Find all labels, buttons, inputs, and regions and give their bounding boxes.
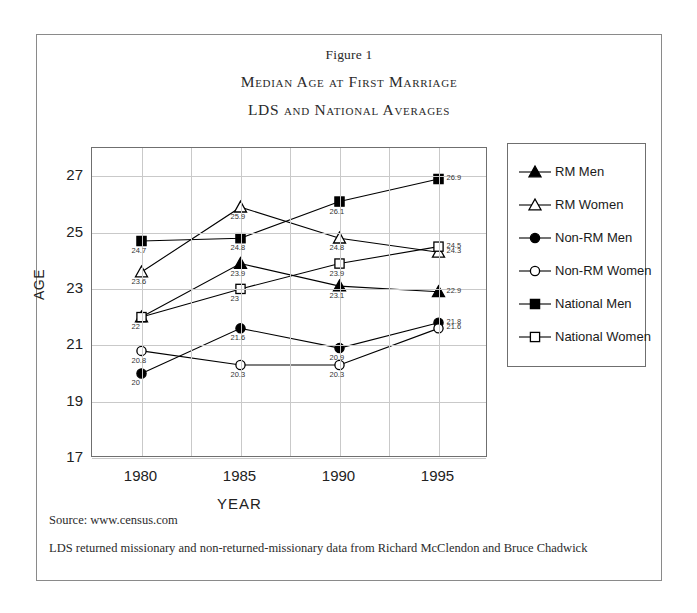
filled-square-marker [530,299,539,308]
y-gridline [92,233,486,234]
data-point-label: 24.5 [447,241,462,250]
legend-item[interactable]: National Women [518,320,645,353]
y-gridline [92,402,486,403]
y-gridline [92,345,486,346]
chart-legend: RM MenRM WomenNon-RM MenNon-RM WomenNati… [507,143,646,367]
y-tick-label: 25 [49,223,83,240]
y-gridline [92,458,486,459]
data-point-label: 23.9 [330,269,345,278]
legend-item[interactable]: Non-RM Women [518,254,645,287]
legend-label: Non-RM Women [555,263,652,278]
data-point-label: 20.3 [231,370,246,379]
y-tick-label: 21 [49,335,83,352]
legend-label: Non-RM Men [555,230,632,245]
legend-item[interactable]: RM Men [518,155,645,188]
x-gridline [439,148,440,456]
y-gridline [92,176,486,177]
legend-label: RM Women [555,197,623,212]
data-point-label: 26.9 [447,173,462,182]
data-point-label: 23 [231,294,239,303]
data-point-label: 20.8 [132,356,147,365]
data-point-label: 23.9 [231,269,246,278]
y-tick-label: 27 [49,166,83,183]
filled-square-icon [518,296,552,312]
data-point-label: 21.6 [447,322,462,331]
data-point-label: 21.6 [231,333,246,342]
data-note: LDS returned missionary and non-returned… [49,541,587,556]
data-point-label: 20.9 [330,353,345,362]
x-gridline [389,148,390,456]
open-circle-icon [518,263,552,279]
filled-triangle-icon [518,164,552,180]
open-square-marker [530,332,539,341]
x-axis-title: YEAR [217,495,262,512]
open-circle-marker [530,266,539,275]
filled-circle-marker [530,233,539,242]
x-tick-label: 1980 [111,467,171,484]
y-tick-label: 17 [49,448,83,465]
data-point-label: 24.8 [231,243,246,252]
x-gridline [340,148,341,456]
open-triangle-icon [518,197,552,213]
x-gridline [290,148,291,456]
filled-triangle-marker [529,166,541,177]
x-tick-label: 1985 [210,467,270,484]
y-axis-title: AGE [31,269,47,300]
figure-frame: Figure 1 Median Age at First Marriage LD… [36,34,662,581]
legend-label: National Women [555,329,651,344]
legend-item[interactable]: National Men [518,287,645,320]
x-tick-label: 1990 [309,467,369,484]
data-point-label: 22 [132,322,140,331]
data-point-label: 20 [132,378,140,387]
data-point-label: 24.7 [132,246,147,255]
chart-plot-area [91,147,487,457]
figure-number: Figure 1 [37,47,661,63]
x-gridline [191,148,192,456]
chart-svg [92,148,486,456]
filled-circle-icon [518,230,552,246]
data-point-label: 24.8 [330,243,345,252]
figure-title-line-2: LDS and National Averages [37,101,661,119]
y-gridline [92,289,486,290]
data-point-label: 23.6 [132,277,147,286]
legend-label: RM Men [555,164,604,179]
figure-title-line-1: Median Age at First Marriage [37,73,661,91]
y-tick-label: 19 [49,392,83,409]
x-gridline [241,148,242,456]
open-square-icon [518,329,552,345]
data-point-label: 25.9 [231,212,246,221]
data-point-label: 26.1 [330,207,345,216]
data-point-label: 22.9 [447,286,462,295]
y-tick-label: 23 [49,279,83,296]
legend-label: National Men [555,296,632,311]
x-tick-label: 1995 [408,467,468,484]
legend-item[interactable]: RM Women [518,188,645,221]
data-point-label: 23.1 [330,291,345,300]
data-point-label: 20.3 [330,370,345,379]
source-note: Source: www.census.com [49,513,178,528]
open-triangle-marker [529,199,541,210]
legend-item[interactable]: Non-RM Men [518,221,645,254]
x-gridline [142,148,143,456]
